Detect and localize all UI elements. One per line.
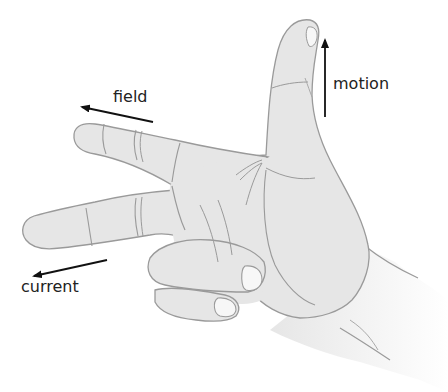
hand-illustration: [0, 0, 448, 392]
field-arrow: [82, 107, 153, 122]
middle-finger: [23, 190, 190, 249]
motion-label: motion: [333, 74, 389, 93]
thumbnail: [306, 27, 317, 47]
current-arrow: [34, 260, 107, 276]
left-hand-rule-diagram: field motion current: [0, 0, 448, 392]
current-label: current: [21, 277, 79, 296]
field-label: field: [113, 87, 148, 106]
